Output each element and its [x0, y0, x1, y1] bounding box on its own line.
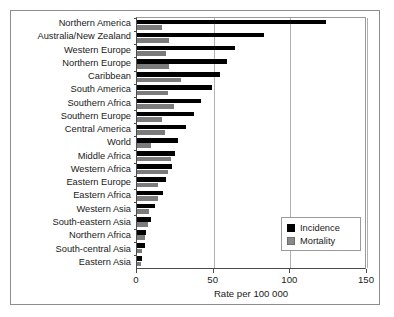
bar-incidence — [137, 59, 227, 64]
legend-swatch-mortality — [287, 237, 295, 245]
category-tickmark — [134, 150, 137, 151]
category-label: Eastern Europe — [14, 176, 134, 189]
bar-group — [137, 176, 365, 189]
x-tick-label: 0 — [133, 274, 138, 285]
bar-mortality — [137, 64, 169, 69]
bar-mortality — [137, 157, 171, 162]
bar-incidence — [137, 46, 235, 51]
bar-incidence — [137, 230, 146, 235]
category-label: Northern America — [14, 17, 134, 30]
category-label: South-eastern Asia — [14, 216, 134, 229]
bar-mortality — [137, 143, 151, 148]
x-tick — [289, 269, 290, 273]
bar-incidence — [137, 85, 212, 90]
bar-group — [137, 110, 365, 123]
bar-group — [137, 202, 365, 215]
category-label: Caribbean — [14, 70, 134, 83]
category-tickmark — [134, 57, 137, 58]
legend-swatch-incidence — [287, 224, 295, 232]
legend-label-incidence: Incidence — [300, 223, 340, 233]
figure: Northern AmericaAustralia/New ZealandWes… — [0, 0, 394, 317]
bar-mortality — [137, 25, 162, 30]
legend: Incidence Mortality — [281, 217, 361, 251]
category-label: Northern Europe — [14, 57, 134, 70]
bar-incidence — [137, 243, 145, 248]
x-tick — [213, 269, 214, 273]
legend-item-mortality: Mortality — [287, 234, 355, 247]
bar-mortality — [137, 51, 166, 56]
bar-incidence — [137, 204, 155, 209]
bar-incidence — [137, 138, 178, 143]
category-label: South America — [14, 83, 134, 96]
category-tickmark — [134, 202, 137, 203]
bar-mortality — [137, 209, 149, 214]
x-tick-label: 150 — [358, 274, 374, 285]
bar-group — [137, 97, 365, 110]
category-label: Central America — [14, 123, 134, 136]
category-label: Western Africa — [14, 163, 134, 176]
category-label: Eastern Asia — [14, 256, 134, 269]
category-tickmark — [134, 71, 137, 72]
legend-item-incidence: Incidence — [287, 221, 355, 234]
category-label: Eastern Africa — [14, 189, 134, 202]
category-label: South-central Asia — [14, 243, 134, 256]
bar-group — [137, 18, 365, 31]
category-tickmark — [134, 189, 137, 190]
category-label: Western Asia — [14, 203, 134, 216]
bar-group — [137, 136, 365, 149]
bar-mortality — [137, 235, 145, 240]
bar-mortality — [137, 130, 165, 135]
bar-group — [137, 123, 365, 136]
category-tickmark — [134, 163, 137, 164]
bar-incidence — [137, 20, 326, 25]
category-tickmark — [134, 229, 137, 230]
bar-group — [137, 84, 365, 97]
bar-group — [137, 44, 365, 57]
bar-incidence — [137, 33, 264, 38]
category-axis-labels: Northern AmericaAustralia/New ZealandWes… — [14, 17, 134, 269]
bar-incidence — [137, 72, 220, 77]
bar-mortality — [137, 117, 162, 122]
category-label: Northern Africa — [14, 229, 134, 242]
gridline — [367, 18, 368, 268]
bar-group — [137, 150, 365, 163]
bar-mortality — [137, 91, 168, 96]
category-tickmark — [134, 44, 137, 45]
bar-mortality — [137, 183, 158, 188]
category-tickmark — [134, 123, 137, 124]
bar-mortality — [137, 262, 141, 267]
bar-incidence — [137, 151, 175, 156]
bar-mortality — [137, 104, 174, 109]
category-tickmark — [134, 255, 137, 256]
category-label: Australia/New Zealand — [14, 30, 134, 43]
bar-group — [137, 163, 365, 176]
bar-mortality — [137, 222, 148, 227]
bar-incidence — [137, 125, 186, 130]
bar-incidence — [137, 177, 166, 182]
category-label: Middle Africa — [14, 150, 134, 163]
bar-mortality — [137, 78, 181, 83]
category-tickmark — [134, 215, 137, 216]
x-tick — [366, 269, 367, 273]
x-axis-title: Rate per 100 000 — [136, 288, 366, 299]
category-tickmark — [134, 31, 137, 32]
bar-group — [137, 71, 365, 84]
bar-incidence — [137, 112, 194, 117]
bar-group — [137, 255, 365, 268]
category-label: Southern Africa — [14, 97, 134, 110]
bar-incidence — [137, 164, 172, 169]
bar-incidence — [137, 256, 142, 261]
x-tick-label: 100 — [281, 274, 297, 285]
legend-label-mortality: Mortality — [300, 236, 335, 246]
bar-group — [137, 189, 365, 202]
bar-group — [137, 31, 365, 44]
bar-mortality — [137, 249, 142, 254]
x-tick — [136, 269, 137, 273]
bar-incidence — [137, 217, 151, 222]
bar-mortality — [137, 38, 169, 43]
category-label: Southern Europe — [14, 110, 134, 123]
bar-mortality — [137, 196, 158, 201]
bar-incidence — [137, 99, 201, 104]
category-tickmark — [134, 110, 137, 111]
category-tickmark — [134, 242, 137, 243]
